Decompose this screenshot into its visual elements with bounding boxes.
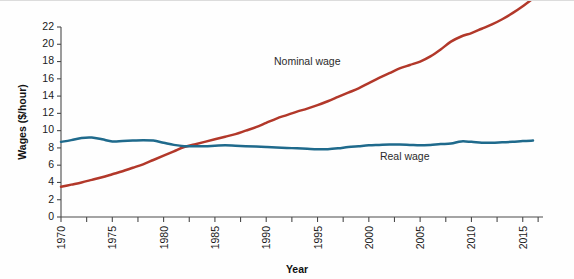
y-tick-label: 12 [42,106,54,118]
x-tick-label: 1975 [106,226,118,250]
y-axis-title: Wages ($/hour) [16,84,28,159]
y-axis-ticks: 0246810121416182022 [42,20,61,222]
y-tick-label: 0 [48,210,54,222]
y-tick-label: 2 [48,193,54,205]
y-tick-label: 8 [48,141,54,153]
wages-line-chart: 0246810121416182022 19701975198019851990… [0,1,574,279]
y-tick-label: 18 [42,54,54,66]
data-series-group [61,1,533,187]
series-line-nominal-wage [61,1,533,187]
series-line-real-wage [61,137,533,149]
y-tick-label: 22 [42,20,54,32]
y-tick-label: 6 [48,158,54,170]
x-tick-label: 1970 [55,226,67,250]
x-tick-label: 2015 [517,226,529,250]
x-axis-title: Year [286,263,308,275]
chart-figure: 0246810121416182022 19701975198019851990… [0,0,574,279]
y-tick-label: 16 [42,72,54,84]
series-label-nominal-wage: Nominal wage [274,55,341,67]
series-label-real-wage: Real wage [380,150,430,162]
y-tick-label: 14 [42,89,54,101]
x-tick-label: 2010 [465,226,477,250]
y-tick-label: 4 [48,175,54,187]
x-tick-label: 2005 [414,226,426,250]
x-tick-label: 1980 [158,226,170,250]
y-tick-label: 20 [42,37,54,49]
x-axis-ticks: 1970197519801985199019952000200520102015 [55,217,538,249]
x-tick-label: 1995 [312,226,324,250]
x-tick-label: 2000 [363,226,375,250]
x-tick-label: 1990 [260,226,272,250]
y-tick-label: 10 [42,123,54,135]
x-tick-label: 1985 [209,226,221,250]
